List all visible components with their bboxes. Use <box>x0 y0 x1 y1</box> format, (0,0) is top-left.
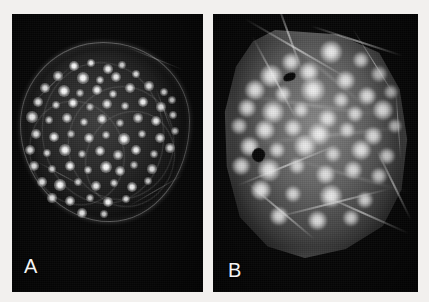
fluorescent-focus <box>77 72 88 83</box>
fluorescent-focus <box>333 92 348 107</box>
panel-b: B <box>213 14 418 292</box>
fluorescent-focus <box>301 78 325 102</box>
fluorescent-focus <box>95 146 105 156</box>
fluorescent-focus <box>171 127 179 135</box>
fluorescent-focus <box>147 164 156 173</box>
fluorescent-focus <box>29 161 39 171</box>
fluorescent-focus <box>384 85 398 99</box>
fluorescent-focus <box>67 130 75 138</box>
fluorescent-focus <box>86 103 94 111</box>
fluorescent-focus <box>144 177 152 185</box>
figure-container: A B <box>0 0 429 302</box>
fluorescent-focus <box>325 146 340 161</box>
fluorescent-focus <box>37 177 47 187</box>
fluorescent-focus <box>125 83 135 93</box>
fluorescent-focus <box>77 208 87 218</box>
fluorescent-focus <box>118 61 126 69</box>
fluorescent-focus <box>47 193 56 202</box>
panel-a: A <box>12 14 203 292</box>
fluorescent-focus <box>294 135 316 157</box>
fluorescent-focus <box>284 119 302 137</box>
fluorescent-focus <box>130 161 138 169</box>
fluorescent-focus <box>65 196 75 206</box>
fluorescent-focus <box>144 81 153 90</box>
panel-label-a: A <box>24 256 38 276</box>
fluorescent-focus <box>59 144 71 156</box>
fluorescent-focus <box>231 118 246 133</box>
fluorescent-focus <box>379 148 395 164</box>
fluorescent-focus <box>76 89 84 97</box>
fluorescent-focus <box>351 140 371 160</box>
fluorescent-focus <box>91 181 101 191</box>
fluorescent-focus <box>293 102 309 118</box>
fluorescent-focus <box>289 158 305 174</box>
fluorescent-focus <box>100 161 112 173</box>
fluorescent-focus <box>113 150 122 159</box>
fluorescent-focus <box>62 113 72 123</box>
fluorescent-focus <box>53 71 62 80</box>
fluorescent-focus <box>150 150 158 158</box>
fluorescent-focus <box>84 133 94 143</box>
fluorescent-focus <box>33 97 43 107</box>
fluorescent-focus <box>353 52 369 68</box>
fluorescent-focus <box>308 211 327 230</box>
fluorescent-focus <box>245 80 265 100</box>
fluorescent-focus <box>151 116 161 126</box>
fluorescent-focus <box>343 210 358 225</box>
fluorescent-focus <box>100 210 108 218</box>
fluorescent-focus <box>31 129 41 139</box>
fluorescent-focus <box>336 71 355 90</box>
fluorescent-focus <box>258 159 279 180</box>
fluorescent-focus <box>270 207 287 224</box>
fluorescent-focus <box>320 185 342 207</box>
fluorescent-focus <box>232 157 250 175</box>
fluorescent-focus <box>358 87 376 105</box>
fluorescent-focus <box>316 165 335 184</box>
fluorescent-focus <box>115 166 125 176</box>
fluorescent-focus <box>168 96 176 104</box>
fluorescent-focus <box>238 99 255 116</box>
fluorescent-focus <box>373 100 393 120</box>
fluorescent-focus <box>344 161 361 178</box>
panel-label-b: B <box>228 260 242 280</box>
fluorescent-focus <box>26 111 37 122</box>
fluorescent-focus <box>103 64 113 74</box>
fluorescent-focus <box>102 99 112 109</box>
fluorescent-focus <box>40 83 50 93</box>
fluorescent-focus <box>371 66 386 81</box>
fluorescent-focus <box>116 119 124 127</box>
fluorescent-focus <box>165 143 174 152</box>
fluorescent-focus <box>111 72 121 82</box>
fluorescent-focus <box>54 179 65 190</box>
fluorescent-focus <box>156 102 165 111</box>
fluorescent-focus <box>357 192 373 208</box>
fluorescent-focus <box>282 53 299 70</box>
fluorescent-focus <box>371 168 386 183</box>
fluorescent-focus <box>118 133 129 144</box>
fluorescent-focus <box>58 85 70 97</box>
fluorescent-focus <box>339 122 355 138</box>
fluorescent-focus <box>133 113 142 122</box>
fluorescent-focus <box>155 133 165 143</box>
